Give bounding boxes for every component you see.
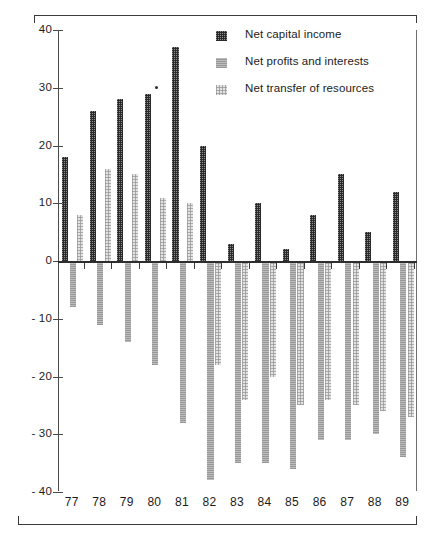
bar-81-series-1 — [172, 47, 178, 261]
legend-swatch-net-profits-and-interests — [216, 58, 227, 68]
bar-88-series-2 — [373, 261, 379, 434]
bar-84-series-2 — [262, 261, 268, 463]
bar-77-series-1 — [62, 157, 68, 261]
bar-79-series-2 — [125, 261, 131, 342]
plot-area — [0, 0, 429, 533]
bar-88-series-1 — [365, 232, 371, 261]
bar-80-series-3 — [160, 198, 166, 262]
chart-root: 403020100- 10- 20- 30- 40 77787980818283… — [0, 0, 429, 533]
bar-77-series-2 — [70, 261, 76, 307]
bar-85-series-2 — [290, 261, 296, 469]
bar-85-series-1 — [283, 249, 289, 261]
legend-label-net-transfer-of-resources: Net transfer of resources — [245, 82, 374, 94]
bar-78-series-2 — [97, 261, 103, 325]
bar-79-series-1 — [117, 99, 123, 261]
bar-86-series-3 — [325, 261, 331, 400]
bar-89-series-2 — [400, 261, 406, 457]
legend-swatch-net-capital-income — [216, 31, 227, 41]
bar-82-series-3 — [215, 261, 221, 365]
bar-82-series-2 — [207, 261, 213, 480]
bar-87-series-2 — [345, 261, 351, 440]
bar-83-series-3 — [242, 261, 248, 400]
scan-speck — [155, 86, 158, 89]
bar-86-series-1 — [310, 215, 316, 261]
x-axis-label-89: 89 — [385, 495, 419, 509]
bar-87-series-1 — [338, 174, 344, 261]
bar-86-series-2 — [318, 261, 324, 440]
x-axis-zero-line — [58, 261, 417, 263]
bar-77-series-3 — [77, 215, 83, 261]
legend-label-net-profits-and-interests: Net profits and interests — [245, 55, 369, 67]
bar-78-series-3 — [105, 169, 111, 261]
bar-79-series-3 — [132, 174, 138, 261]
bar-83-series-1 — [228, 244, 234, 261]
bar-80-series-2 — [152, 261, 158, 365]
bar-81-series-2 — [180, 261, 186, 423]
bar-82-series-1 — [200, 146, 206, 262]
bar-87-series-3 — [353, 261, 359, 405]
bar-80-series-1 — [145, 94, 151, 262]
bar-89-series-1 — [393, 192, 399, 261]
bar-78-series-1 — [90, 111, 96, 261]
bar-83-series-2 — [235, 261, 241, 463]
bar-85-series-3 — [297, 261, 303, 405]
bar-81-series-3 — [187, 203, 193, 261]
bar-84-series-1 — [255, 203, 261, 261]
bar-88-series-3 — [380, 261, 386, 411]
legend-swatch-net-transfer-of-resources — [216, 85, 227, 95]
legend-label-net-capital-income: Net capital income — [245, 28, 341, 40]
bar-89-series-3 — [408, 261, 414, 417]
bar-84-series-3 — [270, 261, 276, 377]
